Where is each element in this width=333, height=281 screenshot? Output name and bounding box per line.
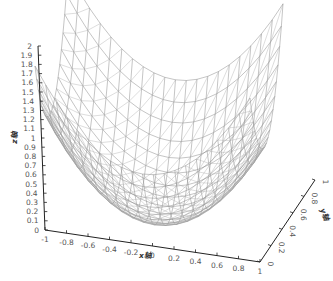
mesh-diagonal bbox=[60, 49, 122, 69]
y-tick-label: 0.4 bbox=[288, 225, 297, 237]
y-tick-label: 0.8 bbox=[310, 192, 319, 204]
y-axis-line bbox=[260, 180, 315, 262]
y-tick-label: 0.6 bbox=[299, 209, 308, 221]
x-tick-label: 1 bbox=[258, 267, 263, 276]
mesh-line bbox=[45, 115, 260, 224]
y-tick bbox=[290, 212, 293, 213]
z-tick-label: 0.7 bbox=[25, 161, 37, 170]
z-tick-label: 1.5 bbox=[22, 88, 34, 97]
z-tick-label: 1.8 bbox=[21, 60, 33, 69]
z-tick-label: 1.4 bbox=[22, 97, 34, 106]
z-tick-label: 2 bbox=[27, 42, 32, 51]
x-tick-label: 0.4 bbox=[190, 257, 202, 266]
x-axis-title: x轴 bbox=[138, 251, 153, 260]
y-axis-ticks: 00.20.40.60.81 bbox=[257, 179, 330, 267]
z-tick-label: 0 bbox=[34, 226, 39, 235]
mesh-line bbox=[250, 4, 283, 149]
y-tick bbox=[301, 195, 304, 196]
z-tick-label: 1.1 bbox=[23, 124, 35, 133]
x-tick-label: 0.2 bbox=[168, 254, 180, 263]
z-tick-label: 0.8 bbox=[24, 152, 36, 161]
x-tick-label: -0.4 bbox=[102, 245, 117, 254]
mesh-diagonal bbox=[45, 72, 219, 185]
axes bbox=[38, 46, 315, 262]
z-tick-label: 1.9 bbox=[20, 51, 32, 60]
y-tick bbox=[268, 245, 271, 246]
z-axis-title: z轴 bbox=[10, 130, 19, 144]
mesh-line bbox=[68, 0, 283, 80]
x-tick-label: -0.2 bbox=[124, 248, 139, 257]
z-tick-label: 0.3 bbox=[26, 198, 38, 207]
z-tick-label: 1.7 bbox=[21, 69, 33, 78]
z-tick-label: 1 bbox=[31, 134, 36, 143]
z-tick-label: 0.1 bbox=[27, 216, 39, 225]
z-tick-label: 0.2 bbox=[26, 207, 38, 216]
y-tick-label: 0.2 bbox=[277, 242, 286, 254]
x-tick-label: 0.8 bbox=[233, 264, 245, 273]
y-tick bbox=[312, 179, 315, 180]
mesh-line bbox=[67, 24, 100, 169]
z-tick-label: 0.6 bbox=[25, 170, 37, 179]
x-tick-label: -0.6 bbox=[81, 241, 96, 250]
y-tick-label: 0 bbox=[266, 262, 275, 267]
z-tick-label: 1.2 bbox=[23, 115, 35, 124]
x-tick-label: -0.8 bbox=[59, 238, 74, 247]
mesh-line bbox=[61, 50, 276, 159]
mesh-line bbox=[38, 90, 253, 199]
z-tick-label: 0.5 bbox=[25, 180, 37, 189]
mesh-diagonal bbox=[53, 77, 165, 129]
mesh-line bbox=[121, 73, 154, 218]
mesh-line bbox=[40, 99, 255, 208]
x-tick-label: 0.6 bbox=[211, 261, 223, 270]
z-tick-label: 0.9 bbox=[24, 143, 36, 152]
mesh-line bbox=[78, 37, 111, 182]
mesh-diagonal bbox=[63, 24, 100, 34]
mesh-diagonal bbox=[55, 73, 154, 116]
mesh-line bbox=[66, 0, 281, 103]
paraboloid-wireframe bbox=[35, 0, 283, 225]
y-tick-label: 1 bbox=[321, 180, 330, 185]
mesh-line bbox=[43, 111, 258, 220]
z-tick-label: 1.6 bbox=[21, 78, 33, 87]
mesh-diagonal bbox=[43, 65, 229, 193]
mesh-diagonal bbox=[40, 46, 251, 207]
z-tick-label: 1.3 bbox=[23, 106, 35, 115]
surface-plot: 00.10.20.30.40.50.60.70.80.911.11.21.31.… bbox=[0, 0, 333, 281]
x-tick-label: -1 bbox=[41, 235, 49, 244]
y-tick bbox=[279, 228, 282, 229]
mesh-diagonal bbox=[46, 26, 282, 223]
y-axis-title: y轴 bbox=[318, 207, 331, 223]
mesh-diagonal bbox=[35, 4, 283, 220]
z-tick-label: 0.4 bbox=[26, 189, 38, 198]
mesh-diagonal bbox=[57, 67, 144, 102]
